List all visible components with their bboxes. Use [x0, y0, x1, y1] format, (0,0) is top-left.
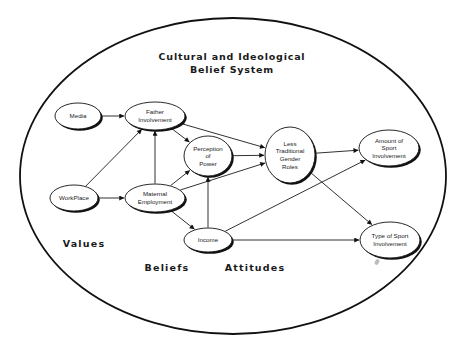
edge-lesstrad-to-type — [310, 172, 372, 224]
node-label: Involvement — [138, 116, 172, 123]
node-lesstrad: LessTraditionalGenderRoles — [265, 127, 317, 185]
edge-lesstrad-to-amount — [315, 150, 358, 153]
node-label: Sport — [382, 144, 397, 151]
diagram-title-line1: Cultural and Ideological — [159, 51, 306, 62]
node-type: Type of SportInvolvement — [360, 222, 422, 260]
node-maternal: MaternalEmployment — [125, 184, 187, 214]
node-label: Traditional — [276, 147, 305, 154]
node-label: Employment — [138, 198, 173, 205]
node-label: Roles — [282, 163, 298, 170]
node-label: WorkPlace — [59, 194, 89, 201]
node-label: Media — [70, 112, 87, 119]
node-income: Income — [184, 228, 234, 254]
diagram-title-line2: Belief System — [190, 64, 274, 75]
edge-maternal-to-income — [171, 210, 195, 229]
node-father: FatherInvolvement — [125, 102, 187, 132]
node-label: Less — [283, 140, 296, 147]
node-label: Maternal — [143, 190, 167, 197]
node-label: Income — [198, 236, 219, 243]
edge-workplace-to-father — [86, 129, 142, 186]
node-workplace: WorkPlace — [50, 185, 100, 213]
node-label: of — [205, 152, 210, 159]
edge-father-to-perception — [171, 128, 189, 142]
node-label: Power — [199, 160, 217, 167]
region-label-values: Values — [63, 238, 106, 249]
node-label: Amount of — [375, 137, 403, 144]
scan-smudge — [374, 258, 380, 265]
region-label-beliefs: Beliefs — [145, 262, 190, 273]
path-diagram: Cultural and Ideological Belief System V… — [0, 0, 465, 351]
node-label: Type of Sport — [372, 232, 409, 239]
node-perception: PerceptionofPower — [184, 136, 234, 178]
edge-layer — [86, 116, 372, 240]
node-amount: Amount ofSportInvolvement — [359, 130, 421, 168]
node-label: Perception — [193, 145, 223, 152]
node-label: Father — [146, 108, 164, 115]
node-label: Gender — [280, 155, 301, 162]
node-media: Media — [55, 103, 103, 131]
edge-maternal-to-perception — [171, 170, 190, 185]
region-label-attitudes: Attitudes — [225, 262, 286, 273]
node-label: Involvement — [373, 240, 407, 247]
node-layer: MediaWorkPlaceFatherInvolvementMaternalE… — [50, 102, 422, 260]
node-label: Involvement — [372, 152, 406, 159]
